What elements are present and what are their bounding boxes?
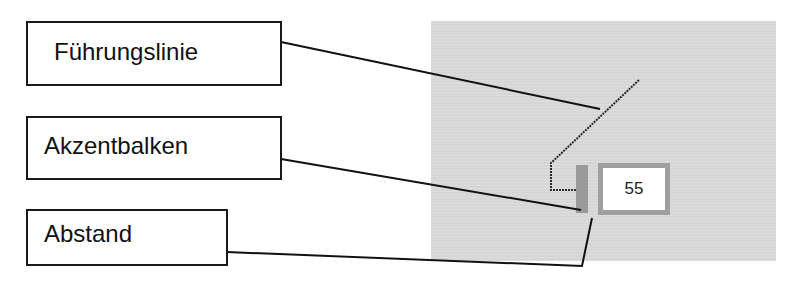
pointer-akzentbalken bbox=[281, 159, 581, 210]
leader-line bbox=[551, 80, 639, 190]
connector-lines bbox=[0, 0, 794, 283]
pointer-abstand bbox=[227, 218, 592, 266]
pointer-fuehrungslinie bbox=[281, 42, 600, 109]
